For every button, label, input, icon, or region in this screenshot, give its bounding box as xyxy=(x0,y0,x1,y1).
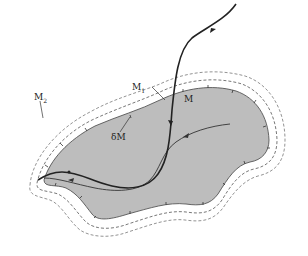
label-m1: M1 xyxy=(132,83,145,94)
arrowhead-icon xyxy=(210,28,216,33)
label-delta-m: δM xyxy=(111,133,126,142)
diagram-svg xyxy=(0,0,308,256)
label-m2: M2 xyxy=(34,93,47,104)
label-m: M xyxy=(184,95,193,104)
trajectory-point xyxy=(68,171,71,174)
diagram-canvas: M2 M1 M δM xyxy=(0,0,308,256)
m1-pointer xyxy=(152,87,165,100)
region-m xyxy=(44,88,269,219)
